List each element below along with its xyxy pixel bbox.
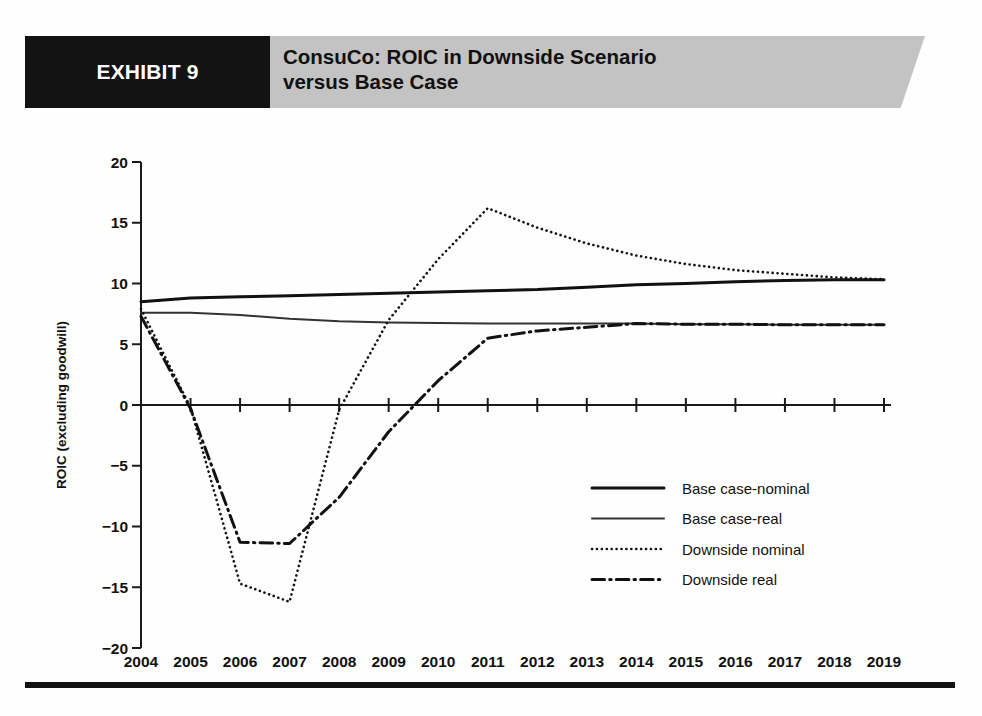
series-line-1 bbox=[141, 280, 884, 302]
y-tick-label: 10 bbox=[111, 275, 128, 292]
series-line-2 bbox=[141, 313, 884, 325]
x-tick-label: 2014 bbox=[619, 653, 654, 670]
x-tick-label: 2017 bbox=[768, 653, 802, 670]
y-axis-title-group: ROIC (excluding goodwill) bbox=[54, 321, 69, 489]
x-tick-label: 2012 bbox=[520, 653, 554, 670]
y-tick-label: −5 bbox=[110, 457, 128, 474]
y-tick-label: 5 bbox=[119, 336, 128, 353]
y-tick-label: −15 bbox=[102, 579, 129, 596]
y-tick-label: 0 bbox=[119, 397, 128, 414]
axis-lines bbox=[141, 162, 891, 648]
chart-svg: ROIC (excluding goodwill) 20151050−5−10−… bbox=[0, 130, 982, 686]
exhibit-title-line-2: versus Base Case bbox=[283, 69, 843, 94]
exhibit-number-label: EXHIBIT 9 bbox=[25, 36, 270, 108]
x-tick-label: 2011 bbox=[471, 653, 505, 670]
x-tick-label: 2016 bbox=[718, 653, 753, 670]
roic-line-chart: ROIC (excluding goodwill) 20151050−5−10−… bbox=[0, 130, 982, 686]
x-tick-label: 2019 bbox=[867, 653, 902, 670]
exhibit-title: ConsuCo: ROIC in Downside Scenario versu… bbox=[283, 44, 843, 94]
x-tick-label: 2005 bbox=[173, 653, 208, 670]
x-tick-label: 2007 bbox=[272, 653, 306, 670]
y-tick-label: 20 bbox=[111, 154, 128, 171]
x-tick-label: 2013 bbox=[570, 653, 605, 670]
exhibit-title-line-1: ConsuCo: ROIC in Downside Scenario bbox=[283, 45, 657, 68]
legend-label: Downside real bbox=[682, 571, 777, 588]
legend-label: Base case-nominal bbox=[682, 480, 810, 497]
y-tick-label: 15 bbox=[111, 214, 129, 231]
x-tick-label: 2006 bbox=[223, 653, 258, 670]
legend-label: Base case-real bbox=[682, 510, 782, 527]
legend-label: Downside nominal bbox=[682, 541, 805, 558]
exhibit-header: EXHIBIT 9 ConsuCo: ROIC in Downside Scen… bbox=[0, 0, 982, 130]
y-axis-ticks: 20151050−5−10−15−20 bbox=[102, 154, 141, 657]
y-tick-label: −10 bbox=[102, 518, 128, 535]
footer-rule bbox=[25, 682, 955, 688]
x-tick-label: 2018 bbox=[817, 653, 852, 670]
x-axis-ticks: 2004200520062007200820092010201120122013… bbox=[124, 398, 902, 670]
x-tick-label: 2004 bbox=[124, 653, 159, 670]
y-axis-title: ROIC (excluding goodwill) bbox=[54, 321, 69, 489]
x-tick-label: 2015 bbox=[669, 653, 704, 670]
x-tick-label: 2010 bbox=[421, 653, 455, 670]
x-tick-label: 2009 bbox=[371, 653, 406, 670]
chart-legend: Base case-nominalBase case-realDownside … bbox=[592, 480, 810, 589]
x-tick-label: 2008 bbox=[322, 653, 357, 670]
